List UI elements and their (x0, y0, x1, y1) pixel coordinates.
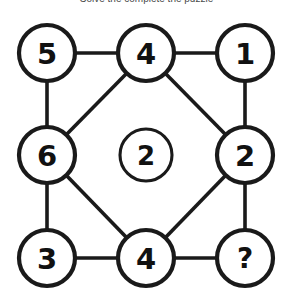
node-label-bottom-right: ? (237, 242, 253, 275)
node-top-center[interactable]: 4 (118, 25, 174, 81)
number-graph-diagram: 5 4 1 6 2 2 (0, 0, 293, 303)
edge-bottom-center-to-middle-left (66, 175, 127, 238)
node-layer: 5 4 1 6 2 2 (19, 25, 273, 286)
node-middle-left[interactable]: 6 (19, 127, 75, 183)
node-bottom-left[interactable]: 3 (19, 230, 75, 286)
node-label-middle-left: 6 (37, 139, 57, 173)
node-top-left[interactable]: 5 (19, 25, 75, 81)
node-label-top-center: 4 (136, 37, 156, 71)
node-label-middle-right: 2 (235, 139, 255, 173)
node-label-top-right: 1 (235, 37, 255, 71)
node-middle-right[interactable]: 2 (217, 127, 273, 183)
node-center[interactable]: 2 (120, 129, 172, 181)
node-top-right[interactable]: 1 (217, 25, 273, 81)
node-bottom-right-unknown[interactable]: ? (217, 230, 273, 286)
edge-middle-right-to-bottom-center (165, 175, 226, 238)
puzzle-figure: Solve the complete the puzzle 5 (0, 0, 293, 303)
node-label-center: 2 (137, 141, 155, 171)
node-label-bottom-left: 3 (37, 242, 57, 276)
edge-top-center-to-middle-right (165, 73, 226, 135)
node-label-bottom-center: 4 (136, 242, 156, 276)
edge-middle-left-to-top-center (66, 73, 127, 135)
node-label-top-left: 5 (37, 37, 57, 71)
node-bottom-center[interactable]: 4 (118, 230, 174, 286)
